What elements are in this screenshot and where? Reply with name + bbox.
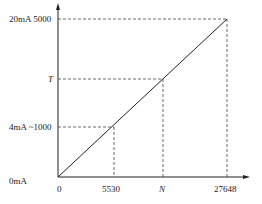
x-label-5530: 5530 bbox=[102, 184, 120, 194]
chart-canvas bbox=[0, 0, 262, 204]
x-axis-arrow-icon bbox=[243, 175, 250, 179]
y-label-4mA-1000: 4mA ~1000 bbox=[9, 122, 52, 132]
y-label-T: T bbox=[48, 74, 53, 84]
y-axis-arrow-icon bbox=[56, 3, 60, 10]
conversion-line bbox=[58, 19, 227, 177]
y-label-0mA: 0mA bbox=[9, 176, 27, 186]
y-label-20mA-5000: 20mA 5000 bbox=[9, 14, 51, 24]
x-label-N: N bbox=[159, 184, 165, 194]
x-label-27648: 27648 bbox=[214, 184, 237, 194]
x-label-0: 0 bbox=[57, 184, 62, 194]
